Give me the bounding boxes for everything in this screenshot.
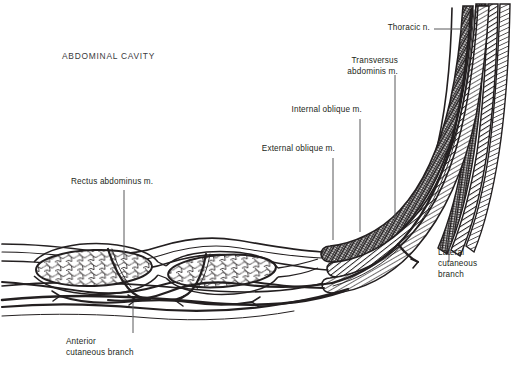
label-anterior-cutaneous-line1: Anterior — [66, 337, 96, 348]
label-internal-oblique: Internal oblique m. — [205, 105, 362, 116]
label-transversus-abdominis-line2: abdominis m. — [265, 67, 398, 78]
label-external-oblique: External oblique m. — [178, 144, 335, 155]
label-lateral-cutaneous-line2: cutaneous — [438, 259, 477, 270]
label-thoracic-nerve: Thoracic n. — [300, 23, 430, 34]
label-transversus-abdominis-line1: Transversus — [265, 56, 398, 67]
label-abdominal-cavity: ABDOMINAL CAVITY — [62, 51, 155, 62]
label-lateral-cutaneous-line1: Lateral — [438, 248, 464, 259]
label-rectus-abdominus: Rectus abdominus m. — [71, 177, 153, 188]
label-lateral-cutaneous-line3: branch — [438, 270, 464, 281]
label-anterior-cutaneous-line2: cutaneous branch — [66, 348, 134, 359]
